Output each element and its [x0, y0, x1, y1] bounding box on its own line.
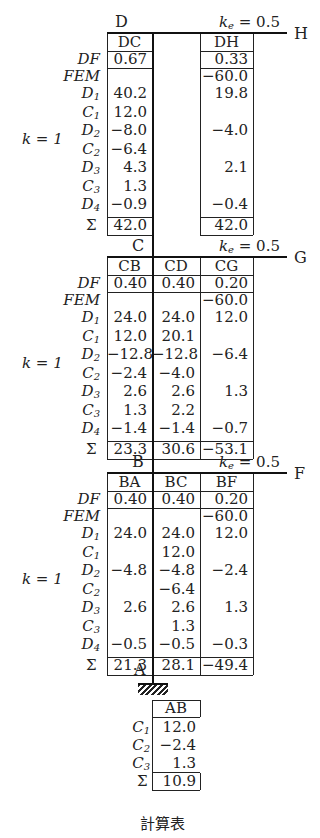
cell-d3: 2.6 [152, 383, 195, 400]
fem-value: −60.0 [200, 68, 248, 85]
node-label-D: D [115, 13, 128, 30]
column-header: AB [152, 700, 200, 717]
node-label-B: B [132, 453, 144, 470]
cell-d1: 24.0 [107, 309, 147, 326]
node-label-H: H [294, 25, 308, 42]
cell-d3: 2.1 [200, 159, 248, 176]
cell-d1: 40.2 [107, 85, 147, 102]
bottom-border [152, 790, 200, 791]
cell-c1: 12.0 [107, 328, 147, 345]
df-value: 0.20 [200, 491, 248, 508]
ke-label: ke = 0.5 [219, 454, 280, 474]
df-divider [107, 292, 152, 293]
row-label-d1: D1 [30, 309, 100, 329]
cell-d1: 12.0 [200, 525, 248, 542]
cell-d3: 1.3 [200, 383, 248, 400]
column-border [200, 700, 201, 717]
cell-d1: 19.8 [200, 85, 248, 102]
df-value: 0.40 [152, 275, 195, 292]
row-label-fem: FEM [30, 292, 100, 309]
row-label-sum: Σ [137, 773, 148, 790]
cell-c2: −2.4 [152, 737, 196, 754]
cell-c2: −6.4 [107, 141, 147, 158]
cell-d4: −0.3 [200, 636, 248, 653]
cell-d2: −12.8 [152, 346, 195, 363]
cell-d4: −0.7 [200, 420, 248, 437]
column-header: DC [107, 34, 152, 51]
column-header: CB [107, 258, 152, 275]
row-label-df: DF [30, 51, 100, 68]
column-header: BC [152, 474, 200, 491]
df-value: 0.20 [200, 275, 248, 292]
cell-d4: −1.4 [152, 420, 195, 437]
cell-d3: 2.6 [107, 383, 147, 400]
cell-c3: 1.3 [152, 755, 196, 772]
column-header: BA [107, 474, 152, 491]
cell-d4: −0.5 [152, 636, 195, 653]
row-label-fem: FEM [30, 508, 100, 525]
node-label-G: G [294, 249, 307, 266]
df-divider [107, 508, 152, 509]
df-value: 0.40 [107, 491, 147, 508]
bottom-border [152, 675, 200, 676]
row-label-df: DF [30, 491, 100, 508]
sum-value: 10.9 [152, 773, 196, 790]
bottom-border [152, 459, 200, 460]
cell-d2: −4.0 [200, 122, 248, 139]
row-label-sum: Σ [86, 657, 100, 674]
k-label: k = 1 [22, 131, 63, 148]
cell-c2: −2.4 [107, 365, 147, 382]
df-value: 0.33 [200, 51, 248, 68]
k-label: k = 1 [22, 571, 63, 588]
row-label-df: DF [30, 275, 100, 292]
df-value: 0.40 [152, 491, 195, 508]
cell-d3: 4.3 [107, 159, 147, 176]
column-header: CD [152, 258, 200, 275]
sum-value: 30.6 [152, 441, 195, 458]
column-border [253, 258, 254, 459]
row-label-d4: D4 [30, 636, 100, 656]
fem-value: −60.0 [200, 292, 248, 309]
column-header: CG [200, 258, 253, 275]
bottom-border [200, 675, 253, 676]
cell-d4: −0.9 [107, 196, 147, 213]
cell-d4: −0.5 [107, 636, 147, 653]
node-label-F: F [294, 465, 305, 482]
cell-d1: 12.0 [200, 309, 248, 326]
cell-c1: 20.1 [152, 328, 195, 345]
row-label-fem: FEM [30, 68, 100, 85]
row-label-d3: D3 [30, 159, 100, 179]
df-divider [152, 292, 200, 293]
cell-c3: 1.3 [107, 402, 147, 419]
row-label-d4: D4 [30, 196, 100, 216]
cell-d2: −4.8 [107, 562, 147, 579]
fem-value: −60.0 [200, 508, 248, 525]
row-label-d3: D3 [30, 599, 100, 619]
cell-c2: −4.0 [152, 365, 195, 382]
column-member-line [152, 256, 154, 472]
bottom-border [107, 459, 152, 460]
row-label-sum: Σ [86, 217, 100, 234]
sum-value: −49.4 [200, 657, 248, 674]
df-divider [152, 508, 200, 509]
cell-d2: −2.4 [200, 562, 248, 579]
column-member-line [152, 32, 154, 256]
ke-label: ke = 0.5 [219, 14, 280, 34]
k-label: k = 1 [22, 355, 63, 372]
sum-value: 42.0 [200, 217, 248, 234]
df-divider [107, 68, 152, 69]
cell-d2: −8.0 [107, 122, 147, 139]
row-label-sum: Σ [86, 441, 100, 458]
fixed-support-hatch [138, 685, 168, 695]
cell-d3: 1.3 [200, 599, 248, 616]
row-label-d3: D3 [30, 383, 100, 403]
node-label-C: C [132, 237, 144, 254]
df-value: 0.40 [107, 275, 147, 292]
caption: 計算表 [140, 812, 185, 833]
cell-d2: −4.8 [152, 562, 195, 579]
column-header: DH [200, 34, 253, 51]
df-value: 0.67 [107, 51, 147, 68]
row-label-d1: D1 [30, 85, 100, 105]
sum-value: 28.1 [152, 657, 195, 674]
column-border [253, 34, 254, 235]
